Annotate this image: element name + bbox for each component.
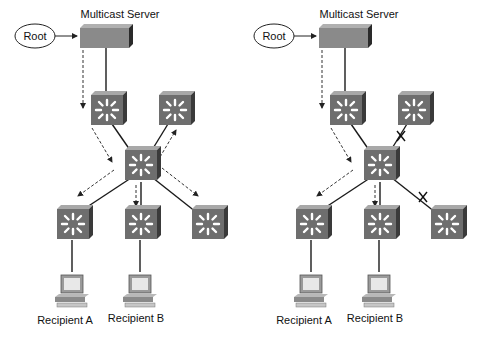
server-label: Multicast Server (320, 8, 399, 20)
root-label: Root (23, 30, 46, 42)
core-switch-icon (364, 146, 400, 180)
switch-icon (57, 205, 93, 239)
diagram-left: Multicast Server Root (15, 8, 228, 326)
switch-icon (125, 205, 161, 239)
switch-icon (364, 205, 400, 239)
switch-icon (159, 91, 195, 125)
blocked-link-marks (397, 131, 427, 202)
computer-icon (362, 275, 396, 307)
recipient-a-label: Recipient A (37, 314, 93, 326)
recipient-b-label: Recipient B (108, 312, 164, 324)
switch-icon (91, 91, 127, 125)
switch-icon (431, 205, 467, 239)
switch-icon (330, 91, 366, 125)
switch-icon (296, 205, 332, 239)
recipient-b-label: Recipient B (347, 312, 403, 324)
server-label: Multicast Server (81, 8, 160, 20)
computer-icon (55, 275, 89, 307)
diagram-right: Multicast Server Root (254, 8, 467, 326)
switch-icon (398, 91, 434, 125)
multicast-diagram: Multicast Server Root (0, 0, 478, 340)
switch-icon (192, 205, 228, 239)
computer-icon (294, 275, 328, 307)
server-icon (80, 24, 133, 48)
root-label: Root (262, 30, 285, 42)
computer-icon (123, 275, 157, 307)
core-switch-icon (125, 146, 161, 180)
recipient-a-label: Recipient A (276, 314, 332, 326)
server-icon (319, 24, 372, 48)
